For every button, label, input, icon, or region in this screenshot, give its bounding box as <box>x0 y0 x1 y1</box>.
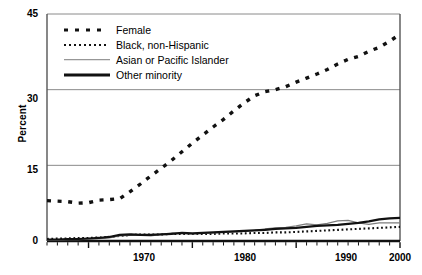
legend-label-female: Female <box>116 24 151 36</box>
legend-item-other-minority: Other minority <box>62 67 229 82</box>
y-tick-label-45: 45 <box>8 8 38 19</box>
x-tick-label-2000: 2000 <box>377 252 422 263</box>
y-tick-label-0: 0 <box>8 235 38 246</box>
y-tick-label-15: 15 <box>8 164 38 175</box>
chart-legend: Female Black, non-Hispanic Asian or Paci… <box>62 22 229 82</box>
square-dash-key-icon <box>62 24 110 36</box>
thin-line-key-icon <box>62 54 110 66</box>
legend-item-black-non-hispanic: Black, non-Hispanic <box>62 37 229 52</box>
x-tick-label-1980: 1980 <box>222 252 268 263</box>
chart-container: Percent 45 30 15 0 1970 1980 1990 2000 F… <box>0 0 422 275</box>
fine-dot-key-icon <box>62 39 110 51</box>
x-tick-marks <box>47 242 400 248</box>
thick-line-key-icon <box>62 69 110 81</box>
legend-label-black-non-hispanic: Black, non-Hispanic <box>116 39 209 51</box>
y-tick-label-30: 30 <box>8 93 38 104</box>
legend-item-female: Female <box>62 22 229 37</box>
legend-label-asian-or-pacific-islander: Asian or Pacific Islander <box>116 54 229 66</box>
x-tick-label-1990: 1990 <box>323 252 369 263</box>
legend-item-asian-or-pacific-islander: Asian or Pacific Islander <box>62 52 229 67</box>
x-tick-label-1970: 1970 <box>121 252 167 263</box>
legend-label-other-minority: Other minority <box>116 69 182 81</box>
